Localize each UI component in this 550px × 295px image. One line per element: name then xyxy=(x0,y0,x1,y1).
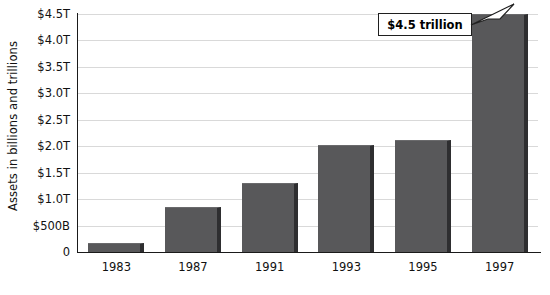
bar-group xyxy=(318,14,374,252)
y-axis-tick-label: $4.5T xyxy=(18,8,70,20)
y-axis-tick-label: $2.0T xyxy=(18,140,70,152)
y-axis-tick-label: $2.5T xyxy=(18,114,70,126)
annotation-callout-box: $4.5 trillion xyxy=(378,13,472,36)
bar xyxy=(472,14,528,252)
annotation-callout-tail-icon xyxy=(470,3,516,37)
bar xyxy=(88,243,144,252)
bar xyxy=(395,140,451,252)
bar xyxy=(165,207,221,252)
y-axis-tick-label: $3.0T xyxy=(18,87,70,99)
x-axis-tick-label: 1983 xyxy=(78,258,155,276)
bar xyxy=(318,145,374,252)
x-axis-tick-label: 1987 xyxy=(155,258,232,276)
y-axis-tick-label: $1.5T xyxy=(18,167,70,179)
bar-group xyxy=(242,14,298,252)
annotation-callout: $4.5 trillion xyxy=(378,13,472,37)
bars-layer xyxy=(78,14,538,252)
y-axis-tick-label: $3.5T xyxy=(18,61,70,73)
bar-group xyxy=(395,14,451,252)
y-axis-tick-label: $500B xyxy=(18,220,70,232)
y-axis-tick-label: $4.0T xyxy=(18,34,70,46)
bar-group xyxy=(472,14,528,252)
x-axis-line xyxy=(77,252,541,253)
bar-group xyxy=(88,14,144,252)
y-axis-tick-label: $1.0T xyxy=(18,193,70,205)
y-axis-tick-labels: 0$500B$1.0T$1.5T$2.0T$2.5T$3.0T$3.5T$4.0… xyxy=(24,0,74,295)
x-axis-tick-label: 1991 xyxy=(231,258,308,276)
bar-group xyxy=(165,14,221,252)
x-axis-tick-label: 1995 xyxy=(385,258,462,276)
bar xyxy=(242,183,298,252)
x-axis-tick-labels: 198319871991199319951997 xyxy=(78,258,538,282)
x-axis-tick-label: 1993 xyxy=(308,258,385,276)
bar-chart: Assets in billions and trillions 0$500B$… xyxy=(0,0,550,295)
x-axis-tick-label: 1997 xyxy=(461,258,538,276)
annotation-callout-label: $4.5 trillion xyxy=(387,18,462,32)
y-axis-tick-label: 0 xyxy=(18,246,70,258)
